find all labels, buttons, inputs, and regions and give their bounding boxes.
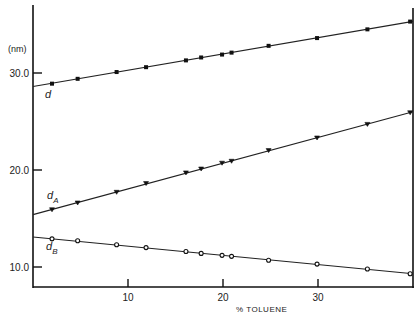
- axes: [33, 5, 414, 288]
- data-point: [76, 239, 80, 243]
- series-label-d: d: [45, 88, 52, 100]
- data-point: [267, 258, 271, 262]
- data-point: [365, 27, 369, 31]
- series-group: [33, 20, 413, 276]
- data-point: [408, 20, 412, 24]
- data-point: [144, 65, 148, 69]
- x-tick-label: 20: [217, 292, 229, 303]
- data-point: [50, 82, 54, 86]
- data-point: [76, 77, 80, 81]
- data-point: [115, 243, 119, 247]
- x-tick-label: 30: [312, 292, 324, 303]
- y-axis-label: (nm): [8, 44, 27, 54]
- y-tick-label: 30.0: [10, 68, 30, 79]
- data-point: [184, 249, 188, 253]
- chart: 10.020.030.0 102030 (nm) % TOLUENE ddAdB: [0, 0, 419, 323]
- data-point: [408, 272, 412, 276]
- series-label-dB: dB: [46, 240, 58, 256]
- data-point: [230, 51, 234, 55]
- series-dB: [33, 237, 413, 276]
- y-ticks: 10.020.030.0: [10, 68, 42, 273]
- y-tick-label: 20.0: [10, 165, 30, 176]
- data-point: [365, 267, 369, 271]
- series-label-dA: dA: [47, 189, 58, 205]
- data-point: [315, 262, 319, 266]
- x-tick-label: 10: [122, 292, 134, 303]
- data-point: [144, 246, 148, 250]
- data-point: [199, 55, 203, 59]
- series-dA: [33, 111, 413, 215]
- x-axis-label: % TOLUENE: [236, 305, 287, 314]
- data-point: [220, 53, 224, 57]
- data-point: [184, 58, 188, 62]
- x-ticks: 102030: [122, 279, 324, 303]
- data-point: [220, 253, 224, 257]
- series-labels: ddAdB: [45, 88, 58, 256]
- data-point: [115, 70, 119, 74]
- y-tick-label: 10.0: [10, 262, 30, 273]
- data-point: [199, 251, 203, 255]
- data-point: [230, 254, 234, 258]
- data-point: [315, 36, 319, 40]
- data-point: [267, 44, 271, 48]
- series-d: [33, 20, 413, 87]
